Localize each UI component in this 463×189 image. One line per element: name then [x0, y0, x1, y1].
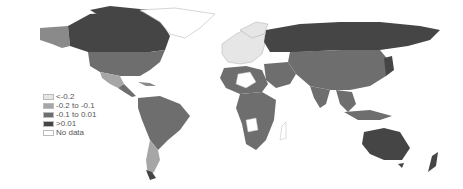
region-southeast-asia	[336, 90, 356, 112]
legend-swatch	[43, 94, 54, 100]
legend-swatch	[43, 112, 54, 118]
region-caribbean	[138, 82, 156, 86]
legend-item: <-0.2	[43, 92, 96, 101]
region-asia	[288, 50, 390, 90]
legend-label: No data	[56, 128, 84, 137]
legend-item: No data	[43, 128, 96, 137]
legend-item: >0.01	[43, 119, 96, 128]
region-russia	[264, 22, 440, 52]
legend-item: -0.1 to 0.01	[43, 110, 96, 119]
region-usa	[88, 50, 165, 76]
legend-label: -0.2 to -0.1	[56, 101, 95, 110]
region-tasmania	[398, 163, 404, 168]
legend-swatch	[43, 103, 54, 109]
region-indonesia	[344, 110, 392, 120]
region-angola-nodata	[246, 118, 258, 132]
region-madagascar	[280, 122, 286, 140]
region-australia	[362, 128, 410, 160]
map-legend: <-0.2 -0.2 to -0.1 -0.1 to 0.01 >0.01 No…	[43, 92, 96, 137]
legend-item: -0.2 to -0.1	[43, 101, 96, 110]
legend-swatch	[43, 121, 54, 127]
legend-label: <-0.2	[56, 92, 74, 101]
legend-label: -0.1 to 0.01	[56, 110, 96, 119]
legend-label: >0.01	[56, 119, 76, 128]
region-new-zealand	[428, 152, 438, 172]
region-alaska	[40, 26, 70, 48]
legend-swatch	[43, 130, 54, 136]
region-south-america	[138, 96, 190, 150]
